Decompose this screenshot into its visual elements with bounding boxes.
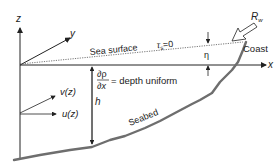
v-velocity-arrow [20,96,55,113]
wind-label: Rw [251,11,263,23]
u-velocity-label: u(z) [62,108,78,119]
v-velocity-label: v(z) [60,86,76,97]
z-axis-label: z [15,13,21,24]
svg-text:∂ρ: ∂ρ [97,69,107,79]
seabed-profile [14,42,246,160]
svg-text:= depth uniform: = depth uniform [111,75,177,86]
y-axis [20,38,70,65]
ocean-shelf-diagram: z x y Sea surface τs=0 η Seabed Coast [0,0,280,163]
density-gradient-label: ∂ρ ∂x = depth uniform [97,69,177,91]
svg-text:∂x: ∂x [97,81,106,91]
y-axis-label: y [69,28,76,39]
coast-label: Coast [243,43,268,54]
depth-h-label: h [95,96,101,107]
wind-arrow-icon [232,23,257,41]
eta-label: η [204,50,209,60]
stress-value: =0 [163,39,174,50]
x-axis-label: x [267,59,274,70]
